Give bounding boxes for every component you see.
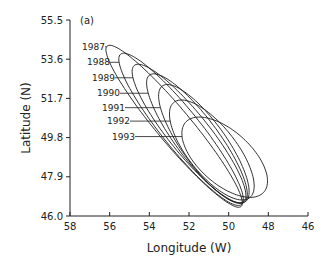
y-tick-label: 46.0 <box>41 211 63 222</box>
ellipse-1989 <box>132 64 246 203</box>
y-tick-label: 53.6 <box>41 54 63 65</box>
x-tick-label: 54 <box>143 221 156 232</box>
panel-label: (a) <box>80 15 94 26</box>
ellipse-1992 <box>170 100 255 200</box>
ellipses <box>106 45 268 207</box>
y-tick-label: 47.9 <box>41 171 63 182</box>
x-tick-label: 58 <box>64 221 77 232</box>
y-tick-label: 55.5 <box>41 15 63 26</box>
ellipse-chart: 46.047.949.851.753.655.5 58565452504846 … <box>0 0 333 273</box>
year-label-1990: 1990 <box>97 88 120 98</box>
year-label-1993: 1993 <box>112 132 135 142</box>
ellipse-1987 <box>106 45 242 207</box>
x-tick-label: 56 <box>103 221 116 232</box>
y-ticks: 46.047.949.851.753.655.5 <box>41 15 70 222</box>
year-label-1987: 1987 <box>82 42 105 52</box>
y-tick-label: 49.8 <box>41 132 63 143</box>
y-tick-label: 51.7 <box>41 93 63 104</box>
x-axis-label: Longitude (W) <box>147 241 232 255</box>
ellipse-1988 <box>119 53 244 205</box>
ellipse-1991 <box>159 85 250 204</box>
year-label-1989: 1989 <box>92 73 115 83</box>
year-label-1992: 1992 <box>107 116 130 126</box>
year-label-1991: 1991 <box>102 103 125 113</box>
x-tick-label: 52 <box>183 221 196 232</box>
x-tick-label: 50 <box>222 221 235 232</box>
y-axis-label: Latitude (N) <box>19 82 33 154</box>
x-tick-label: 48 <box>262 221 275 232</box>
year-label-1988: 1988 <box>87 57 110 67</box>
x-ticks: 58565452504846 <box>64 212 315 232</box>
x-tick-label: 46 <box>302 221 315 232</box>
